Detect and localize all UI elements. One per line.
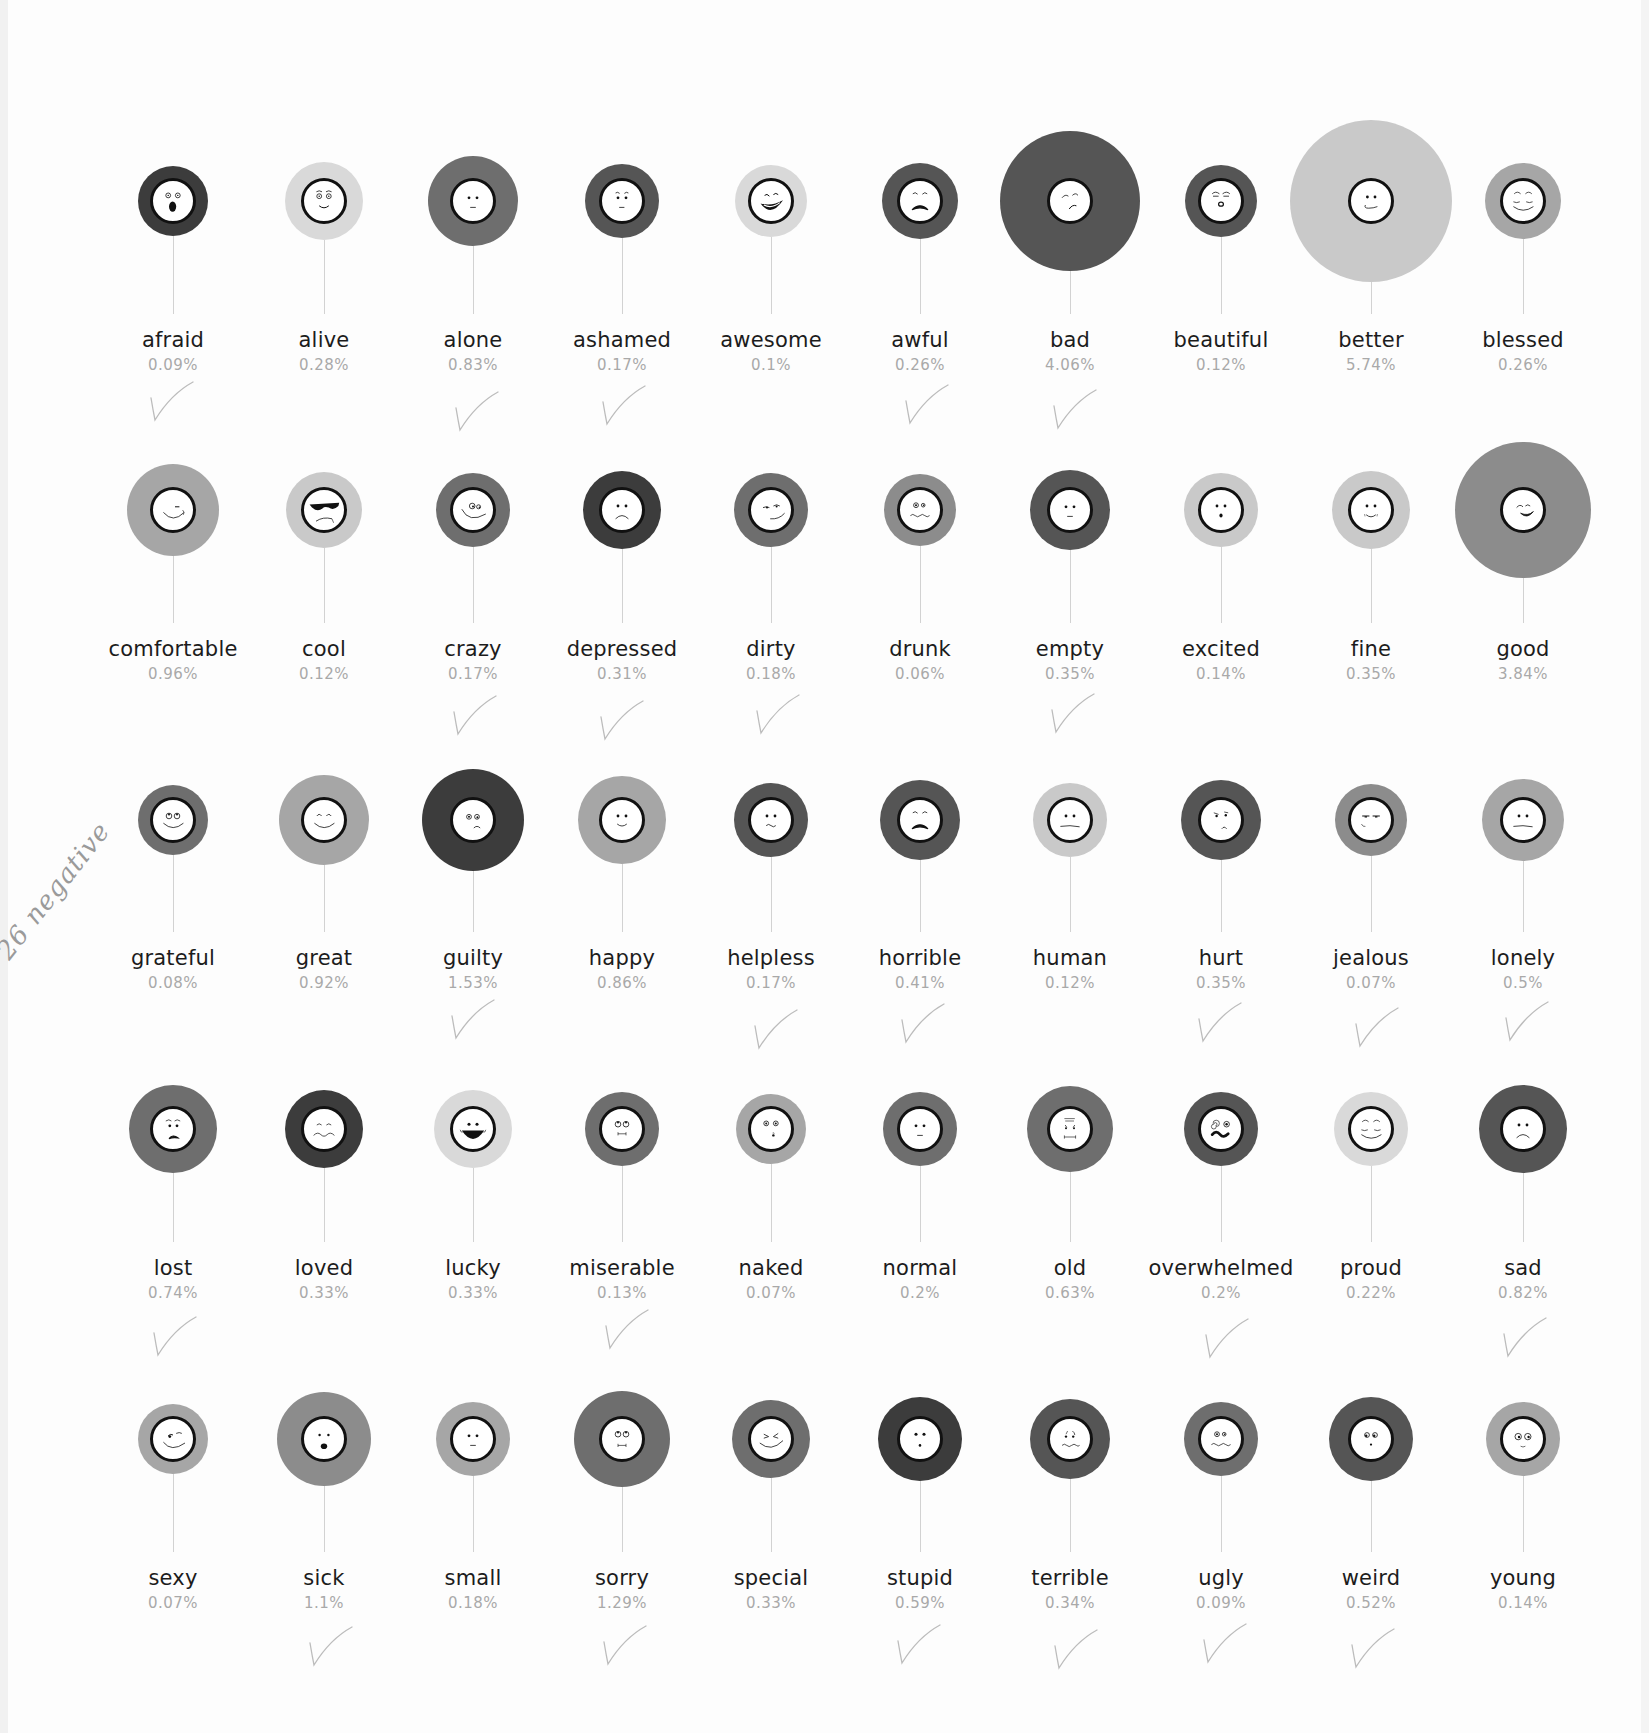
feelings-grid: afraid0.09%alive0.28%alone0.83%ashamed0.…	[0, 0, 1649, 1733]
feeling-word: lonely	[1423, 946, 1623, 970]
handwritten-checkmark-icon	[1348, 1627, 1398, 1671]
sly-face-icon	[748, 487, 794, 533]
grin-wink-face-icon	[1500, 487, 1546, 533]
eyes-up-smile-face-icon	[150, 797, 196, 843]
stem-line	[920, 1481, 921, 1552]
handwritten-checkmark-icon	[1500, 1316, 1550, 1360]
serene-face-icon	[1348, 1106, 1394, 1152]
stem-line	[473, 871, 474, 932]
jealous-face-icon	[1348, 797, 1394, 843]
stem-line	[173, 556, 174, 623]
stupid-face-icon	[897, 1416, 943, 1462]
handwritten-checkmark-icon	[894, 1623, 944, 1667]
handwritten-checkmark-icon	[448, 998, 498, 1042]
stem-line	[1371, 549, 1372, 623]
neutral-face-icon	[1047, 487, 1093, 533]
stem-line	[920, 1166, 921, 1242]
weird-face-icon	[1348, 1416, 1394, 1462]
stem-line	[473, 246, 474, 314]
stem-line	[622, 549, 623, 623]
guilty-face-icon	[450, 797, 496, 843]
serene-face-icon	[1500, 178, 1546, 224]
stem-line	[771, 1164, 772, 1242]
miserable-face-icon	[599, 1106, 645, 1152]
handwritten-checkmark-icon	[898, 1002, 948, 1046]
woozy-face-icon	[1198, 1416, 1244, 1462]
young-face-icon	[1500, 1416, 1546, 1462]
stem-line	[622, 1166, 623, 1242]
stem-line	[173, 1474, 174, 1552]
scared-small-face-icon	[301, 1416, 347, 1462]
handwritten-checkmark-icon	[751, 1008, 801, 1052]
stem-line	[1523, 1476, 1524, 1552]
stem-line	[1070, 1172, 1071, 1242]
terrible-face-icon	[1047, 1416, 1093, 1462]
stem-line	[324, 1168, 325, 1242]
feeling-percentage: 0.26%	[1423, 356, 1623, 374]
handwritten-checkmark-icon	[1050, 388, 1100, 432]
stem-line	[1523, 1173, 1524, 1242]
sad-face-icon	[599, 487, 645, 533]
handwritten-checkmark-icon	[450, 694, 500, 738]
stem-line	[622, 864, 623, 932]
woozy-face-icon	[897, 487, 943, 533]
neutral-face-icon	[450, 1416, 496, 1462]
stem-line	[1371, 1166, 1372, 1242]
old-face-icon	[1047, 1106, 1093, 1152]
stem-line	[1070, 271, 1071, 314]
feeling-word: blessed	[1423, 328, 1623, 352]
stem-line	[920, 239, 921, 314]
handwritten-checkmark-icon	[602, 1308, 652, 1352]
frown-open-face-icon	[897, 797, 943, 843]
flat-face-icon	[1500, 797, 1546, 843]
stem-line	[1221, 860, 1222, 932]
loved-face-icon	[301, 1106, 347, 1152]
handwritten-checkmark-icon	[1352, 1006, 1402, 1050]
sexy-face-icon	[150, 1416, 196, 1462]
smile-face-icon	[599, 797, 645, 843]
laugh-face-icon	[748, 178, 794, 224]
surprised-face-icon	[1198, 487, 1244, 533]
stem-line	[324, 240, 325, 314]
handwritten-checkmark-icon	[1200, 1622, 1250, 1666]
stem-line	[622, 1487, 623, 1552]
scared-face-icon	[150, 178, 196, 224]
handwritten-checkmark-icon	[753, 693, 803, 737]
wink-smile-face-icon	[150, 487, 196, 533]
stem-line	[1523, 578, 1524, 623]
handwritten-checkmark-icon	[452, 390, 502, 434]
stem-line	[1221, 1166, 1222, 1242]
stem-line	[1221, 1476, 1222, 1552]
handwritten-checkmark-icon	[147, 380, 197, 424]
big-grin-face-icon	[450, 1106, 496, 1152]
dizzy-face-icon	[1198, 1106, 1244, 1152]
handwritten-checkmark-icon	[1202, 1317, 1252, 1361]
stem-line	[173, 1173, 174, 1242]
stem-line	[324, 548, 325, 623]
feeling-word: sad	[1423, 1256, 1623, 1280]
feeling-word: good	[1423, 637, 1623, 661]
stem-line	[771, 547, 772, 623]
feeling-percentage: 0.82%	[1423, 1284, 1623, 1302]
handwritten-checkmark-icon	[600, 1624, 650, 1668]
stem-line	[1221, 547, 1222, 623]
feeling-word: young	[1423, 1566, 1623, 1590]
stem-line	[1221, 237, 1222, 314]
kiss-face-icon	[1198, 178, 1244, 224]
stem-line	[173, 855, 174, 932]
stem-line	[771, 237, 772, 314]
stem-line	[1523, 239, 1524, 314]
handwritten-checkmark-icon	[599, 384, 649, 428]
stem-line	[1371, 282, 1372, 314]
sad-face-icon	[1500, 1106, 1546, 1152]
handwritten-checkmark-icon	[1195, 1001, 1245, 1045]
handwritten-checkmark-icon	[597, 699, 647, 743]
stem-line	[173, 236, 174, 314]
smirk-sad-face-icon	[1047, 178, 1093, 224]
stem-line	[622, 238, 623, 314]
stem-line	[1523, 861, 1524, 932]
stem-line	[1371, 856, 1372, 932]
sunglasses-face-icon	[301, 487, 347, 533]
wavy-face-icon	[748, 797, 794, 843]
handwritten-checkmark-icon	[150, 1315, 200, 1359]
